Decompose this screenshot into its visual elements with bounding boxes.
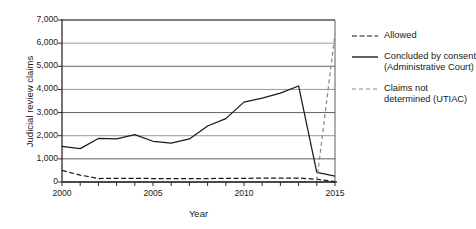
legend-line-swatch [352, 51, 378, 62]
legend-item-label: Concluded by consent (Administrative Cou… [384, 51, 476, 74]
legend-item-label: Allowed [384, 30, 417, 42]
series-line-1 [62, 170, 335, 181]
legend-item: Concluded by consent (Administrative Cou… [352, 51, 476, 74]
legend-item: Claims not determined (UTIAC) [352, 83, 476, 106]
legend-item-label: Claims not determined (UTIAC) [384, 83, 476, 106]
legend-line-swatch [352, 83, 378, 94]
legend-item: Allowed [352, 30, 476, 42]
legend-line-swatch [352, 30, 378, 41]
chart-legend: AllowedConcluded by consent (Administrat… [352, 30, 476, 115]
series-line-2 [62, 86, 335, 176]
chart-figure: Judicial review claims 01,0002,0003,0004… [0, 0, 476, 229]
